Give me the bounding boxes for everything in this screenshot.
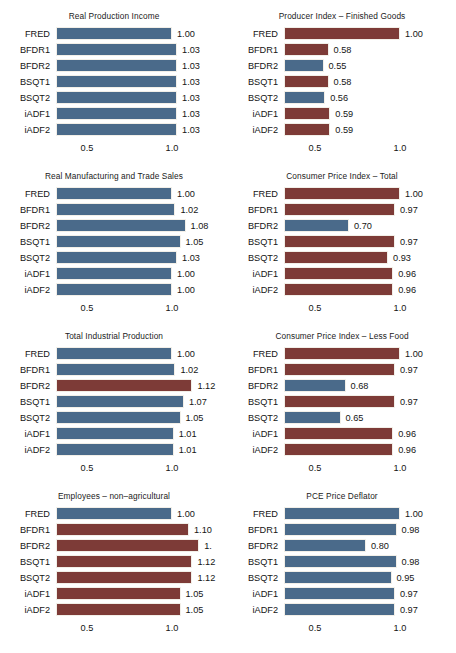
bar (284, 539, 366, 552)
bar-row: BFDR21.12 (0, 378, 228, 393)
bar-value-label: 0.98 (402, 557, 420, 567)
bar-row: BSQT10.58 (228, 74, 456, 89)
bar-value-label: 1.07 (189, 397, 207, 407)
bar-rows: FRED1.00BFDR10.97BFDR20.70BSQT10.97BSQT2… (228, 186, 456, 298)
category-label: iADF1 (0, 109, 50, 119)
category-label: iADF1 (0, 269, 50, 279)
bar-row: BSQT20.56 (228, 90, 456, 105)
panel-title: Real Production Income (0, 11, 228, 21)
x-axis: 0.51.0 (0, 620, 220, 634)
x-axis: 0.51.0 (0, 140, 220, 154)
bar (56, 587, 181, 600)
category-label: iADF1 (228, 269, 278, 279)
bar-value-label: 1.01 (179, 429, 197, 439)
bar-value-label: 1.00 (177, 189, 195, 199)
bar (56, 443, 174, 456)
bar-value-label: 1.12 (197, 381, 215, 391)
bar (284, 427, 393, 440)
category-label: BFDR1 (228, 45, 278, 55)
category-label: FRED (0, 29, 50, 39)
bar (56, 523, 189, 536)
bar (56, 59, 177, 72)
x-axis-tick: 0.5 (309, 623, 322, 633)
bar-value-label: 1.02 (180, 205, 198, 215)
category-label: BSQT1 (228, 77, 278, 87)
bar (56, 203, 175, 216)
bar (284, 283, 393, 296)
bar-row: BSQT21.03 (0, 90, 228, 105)
panel-title: Real Manufacturing and Trade Sales (0, 171, 228, 181)
plot-area: FRED1.00BFDR11.03BFDR21.03BSQT11.03BSQT2… (0, 26, 228, 160)
category-label: BSQT1 (228, 397, 278, 407)
category-label: BFDR2 (0, 541, 50, 551)
bar-row: FRED1.00 (228, 506, 456, 521)
bar-rows: FRED1.00BFDR11.03BFDR21.03BSQT11.03BSQT2… (0, 26, 228, 138)
bar (284, 443, 393, 456)
category-label: FRED (228, 29, 278, 39)
category-label: iADF1 (0, 429, 50, 439)
bar-row: iADF10.97 (228, 586, 456, 601)
bar-rows: FRED1.00BFDR10.97BFDR20.68BSQT10.97BSQT2… (228, 346, 456, 458)
bar (284, 395, 395, 408)
bar (56, 507, 172, 520)
chart-panel: Real Production IncomeFRED1.00BFDR11.03B… (0, 0, 228, 160)
bar-row: BFDR20.68 (228, 378, 456, 393)
chart-grid: Real Production IncomeFRED1.00BFDR11.03B… (0, 0, 456, 653)
bar-value-label: 1.00 (405, 29, 423, 39)
bar-row: BSQT11.05 (0, 234, 228, 249)
bar-value-label: 1.00 (405, 349, 423, 359)
panel-title: Consumer Price Index – Total (228, 171, 456, 181)
bar-value-label: 0.70 (354, 221, 372, 231)
category-label: BSQT2 (0, 413, 50, 423)
bar-row: iADF20.96 (228, 282, 456, 297)
category-label: iADF2 (228, 285, 278, 295)
bar-value-label: 0.97 (400, 605, 418, 615)
chart-panel: Consumer Price Index – TotalFRED1.00BFDR… (228, 160, 456, 320)
bar-value-label: 1.03 (182, 109, 200, 119)
chart-panel: Consumer Price Index – Less FoodFRED1.00… (228, 320, 456, 480)
category-label: iADF2 (228, 445, 278, 455)
bar (284, 59, 324, 72)
bar-row: BSQT21.12 (0, 570, 228, 585)
bar-row: BSQT20.95 (228, 570, 456, 585)
bar-row: iADF21.03 (0, 122, 228, 137)
category-label: BSQT1 (228, 557, 278, 567)
bar-value-label: 0.95 (397, 573, 415, 583)
bar-row: BSQT11.12 (0, 554, 228, 569)
x-axis-tick: 1.0 (394, 623, 407, 633)
bar (284, 347, 400, 360)
bar-row: FRED1.00 (228, 346, 456, 361)
x-axis-tick: 0.5 (81, 303, 94, 313)
bar-row: BFDR20.55 (228, 58, 456, 73)
bar-value-label: 1.10 (194, 525, 212, 535)
bar-row: BFDR21. (0, 538, 228, 553)
plot-area: FRED1.00BFDR10.58BFDR20.55BSQT10.58BSQT2… (228, 26, 456, 160)
bar-row: iADF21.05 (0, 602, 228, 617)
bar-value-label: 0.97 (400, 397, 418, 407)
category-label: iADF1 (228, 589, 278, 599)
bar (56, 123, 177, 136)
bar (284, 555, 397, 568)
bar-row: FRED1.00 (0, 346, 228, 361)
category-label: BFDR2 (228, 61, 278, 71)
bar-row: BFDR21.08 (0, 218, 228, 233)
bar-value-label: 0.97 (400, 237, 418, 247)
bar-value-label: 1.00 (177, 349, 195, 359)
category-label: BSQT1 (0, 557, 50, 567)
bar (284, 363, 395, 376)
plot-area: FRED1.00BFDR10.97BFDR20.68BSQT10.97BSQT2… (228, 346, 456, 480)
bar (56, 427, 174, 440)
category-label: BFDR2 (0, 221, 50, 231)
category-label: iADF2 (228, 605, 278, 615)
bar-row: BSQT10.97 (228, 394, 456, 409)
bar (284, 235, 395, 248)
bar-value-label: 1.03 (182, 93, 200, 103)
bar-value-label: 1.03 (182, 253, 200, 263)
bar-value-label: 1.03 (182, 45, 200, 55)
bar-row: BSQT20.65 (228, 410, 456, 425)
bar-row: BSQT11.07 (0, 394, 228, 409)
category-label: BFDR2 (228, 541, 278, 551)
x-axis-tick: 1.0 (166, 463, 179, 473)
panel-title: Total Industrial Production (0, 331, 228, 341)
bar-value-label: 1.00 (177, 509, 195, 519)
